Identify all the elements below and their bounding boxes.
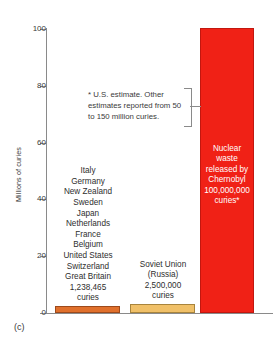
y-tick-label-100: 100 bbox=[16, 24, 46, 33]
annotation-leader-line bbox=[190, 106, 201, 107]
x-axis-line bbox=[46, 313, 273, 314]
plot-area: Italy Germany New Zealand Sweden Japan N… bbox=[47, 28, 273, 313]
bar-soviet-union bbox=[130, 304, 195, 313]
y-tick-label-40: 40 bbox=[16, 194, 46, 203]
panel-label: (c) bbox=[14, 322, 25, 332]
y-tick-60: 60 bbox=[0, 143, 46, 144]
y-tick-label-80: 80 bbox=[16, 81, 46, 90]
y-tick-label-60: 60 bbox=[16, 138, 46, 147]
y-axis-title: Millions of curies bbox=[14, 115, 23, 235]
footnote-annotation: * U.S. estimate. Other estimates reporte… bbox=[88, 89, 184, 123]
y-tick-20: 20 bbox=[0, 256, 46, 257]
y-tick-40: 40 bbox=[0, 199, 46, 200]
bar-label-western-nations: Italy Germany New Zealand Sweden Japan N… bbox=[49, 166, 127, 304]
y-tick-label-0: 0 bbox=[16, 308, 46, 317]
annotation-bracket bbox=[184, 88, 192, 127]
bar-label-chernobyl: Nuclear waste released by Chernobyl 100,… bbox=[201, 144, 253, 206]
y-tick-80: 80 bbox=[0, 86, 46, 87]
bar-western-nations bbox=[55, 306, 120, 313]
y-tick-100: 100 bbox=[0, 29, 46, 30]
bar-label-soviet-union: Soviet Union (Russia) 2,500,000 curies bbox=[125, 260, 201, 302]
y-tick-label-20: 20 bbox=[16, 251, 46, 260]
chart-figure: Millions of curies 100 80 60 40 20 0 Ita… bbox=[0, 0, 277, 348]
y-tick-0: 0 bbox=[0, 313, 46, 314]
